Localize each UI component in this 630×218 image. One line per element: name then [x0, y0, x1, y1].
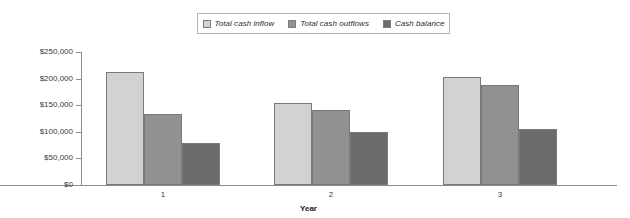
bar-3-series3: [519, 129, 557, 185]
bar-2-series2: [312, 110, 350, 185]
y-axis-tick: [76, 105, 81, 106]
x-axis-tick-label: 2: [311, 191, 351, 199]
y-axis-tick: [76, 158, 81, 159]
x-axis-title: Year: [0, 205, 617, 213]
bar-2-series3: [350, 132, 388, 185]
bar-3-series1: [443, 77, 481, 185]
y-axis-tick: [76, 79, 81, 80]
bar-3-series2: [481, 85, 519, 185]
y-axis-tick-label: $250,000: [0, 48, 73, 56]
bar-1-series1: [106, 72, 144, 185]
x-axis-tick-label: 3: [480, 191, 520, 199]
y-axis-tick: [76, 132, 81, 133]
bar-1-series3: [182, 143, 220, 185]
bar-1-series2: [144, 114, 182, 185]
bar-2-series1: [274, 103, 312, 185]
y-axis-tick-label: $0: [0, 181, 73, 189]
x-axis-tick-label: 1: [143, 191, 183, 199]
y-axis-tick-label: $150,000: [0, 101, 73, 109]
y-axis-tick-label: $50,000: [0, 154, 73, 162]
y-axis-tick-label: $200,000: [0, 75, 73, 83]
y-axis-line: [81, 52, 82, 186]
y-axis-tick: [76, 185, 81, 186]
plot-area: $250,000$200,000$150,000$100,000$50,000$…: [0, 0, 630, 218]
y-axis-tick-label: $100,000: [0, 128, 73, 136]
x-axis-line: [0, 185, 617, 186]
y-axis-tick: [76, 52, 81, 53]
cash-flow-bar-chart: Total cash inflow Total cash outflows Ca…: [0, 0, 630, 218]
